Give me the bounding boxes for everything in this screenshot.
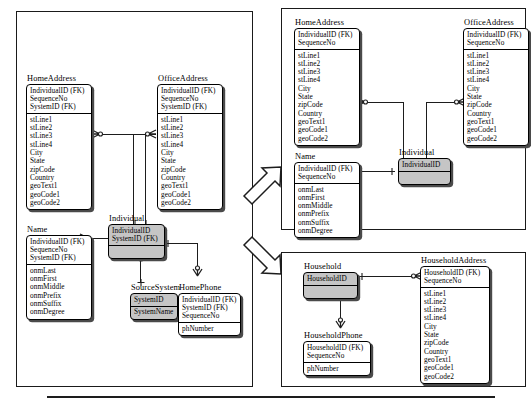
entity-title: Individual — [398, 148, 451, 157]
entity-title: Individual — [108, 214, 165, 223]
er-diagram-canvas: HomeAddress IndividualID (FK) SequenceNo… — [0, 0, 531, 411]
entity-home-phone-source[interactable]: HomePhone IndividualID (FK) SystemID (FK… — [178, 283, 241, 336]
bottom-divider — [47, 396, 495, 398]
connector-line — [133, 134, 134, 224]
entity-household-phone[interactable]: HouseholdPhone HouseholdID (FK) Sequence… — [303, 331, 371, 376]
entity-key: SystemID (FK) — [30, 254, 88, 262]
entity-attribute — [307, 287, 354, 295]
entity-individual-target[interactable]: Individual IndividualID — [398, 148, 451, 185]
entity-key: SystemID (FK) — [161, 103, 219, 111]
arrow-to-household-model — [240, 232, 286, 278]
entity-office-address-source[interactable]: OfficeAddress IndividualID (FK) Sequence… — [157, 74, 223, 210]
entity-key: SequenceNo — [424, 277, 486, 285]
entity-key: SequenceNo — [467, 39, 525, 47]
entity-attribute: geoCode2 — [424, 373, 486, 381]
arrow-to-individual-model — [240, 163, 286, 209]
entity-title: Household — [303, 262, 358, 271]
entity-title: OfficeAddress — [463, 18, 529, 27]
entity-key: SequenceNo — [298, 39, 356, 47]
relationship-bar-icon — [388, 167, 396, 176]
entity-attribute: onmDegree — [30, 308, 88, 316]
entity-attribute: phNumber — [182, 325, 237, 333]
entity-title: Name — [26, 225, 92, 234]
entity-household-address[interactable]: HouseholdAddress HouseholdID (FK) Sequen… — [420, 256, 490, 384]
entity-individual-source[interactable]: Individual IndividualID SystemID (FK) — [108, 214, 165, 259]
entity-key: SystemID — [134, 296, 174, 304]
entity-attribute: geoCode2 — [467, 135, 525, 143]
entity-attribute: geoCode2 — [30, 199, 88, 207]
entity-title: HouseholdPhone — [303, 331, 371, 340]
entity-name-source[interactable]: Name IndividualID (FK) SequenceNo System… — [26, 225, 92, 320]
connector-line — [363, 276, 416, 277]
crowsfoot-icon — [335, 318, 346, 330]
entity-attribute — [402, 173, 447, 181]
connector-line — [145, 134, 146, 224]
entity-title: HomeAddress — [294, 18, 360, 27]
entity-title: SourceSystem — [130, 283, 178, 292]
connector-line — [362, 102, 404, 103]
entity-key: SystemID (FK) — [112, 235, 161, 243]
entity-attribute: geoCode2 — [161, 199, 219, 207]
entity-title: HomePhone — [178, 283, 241, 292]
entity-attribute: phNumber — [307, 365, 367, 373]
entity-title: OfficeAddress — [157, 74, 223, 83]
entity-household[interactable]: Household HouseholdID — [303, 262, 358, 299]
entity-home-address-source[interactable]: HomeAddress IndividualID (FK) SequenceNo… — [26, 74, 92, 210]
entity-attribute: SystemName — [134, 308, 174, 316]
crowsfoot-icon — [192, 266, 203, 278]
entity-key: SystemID (FK) — [30, 103, 88, 111]
entity-source-system[interactable]: SourceSystem SystemID SystemName — [130, 283, 178, 320]
entity-office-address-individual[interactable]: OfficeAddress IndividualID (FK) Sequence… — [463, 18, 529, 146]
connector-line — [168, 243, 198, 244]
entity-key: SequenceNo — [182, 312, 237, 320]
entity-home-address-individual[interactable]: HomeAddress IndividualID (FK) SequenceNo… — [294, 18, 360, 146]
entity-key: HouseholdID — [307, 275, 354, 283]
entity-key: SequenceNo — [307, 352, 367, 360]
entity-attribute: geoCode2 — [298, 135, 356, 143]
entity-title: HomeAddress — [26, 74, 92, 83]
relationship-bar-icon — [358, 272, 366, 281]
entity-key: SequenceNo — [298, 173, 356, 181]
entity-key: IndividualID — [402, 161, 447, 169]
entity-attribute: onmDegree — [298, 227, 356, 235]
entity-title: HouseholdAddress — [420, 256, 490, 265]
relationship-bar-icon — [164, 239, 172, 248]
entity-title: Name — [294, 152, 360, 161]
entity-attribute — [112, 248, 161, 256]
entity-name-individual[interactable]: Name IndividualID (FK) SequenceNo onmLas… — [294, 152, 360, 238]
